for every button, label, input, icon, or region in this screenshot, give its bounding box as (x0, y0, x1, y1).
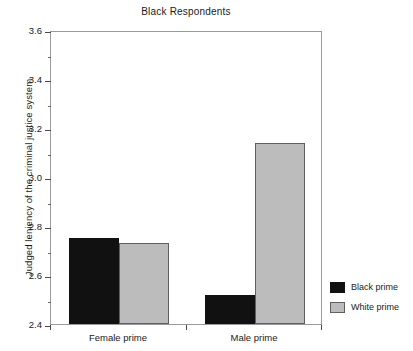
bar-female-prime-black-prime (69, 238, 119, 324)
y-tick-label: 3.6 (8, 26, 42, 36)
y-tick-label: 2.8 (8, 222, 42, 232)
bar-female-prime-white-prime (119, 243, 169, 324)
x-tick-label-female-prime: Female prime (89, 332, 147, 343)
y-tick-label: 3.0 (8, 173, 42, 183)
legend-swatch-icon (330, 302, 345, 313)
bar-male-prime-black-prime (205, 295, 255, 324)
y-tick-mark (45, 81, 51, 82)
y-tick-mark (45, 179, 51, 180)
y-tick-mark (45, 32, 51, 33)
y-tick-label: 3.2 (8, 124, 42, 134)
chart-figure: Black Respondents Judged leniency of the… (0, 0, 413, 351)
legend-label: Black prime (351, 282, 398, 292)
legend-item-black-prime: Black prime (330, 278, 412, 296)
y-minor-tick-mark (48, 57, 52, 58)
y-minor-tick-mark (48, 106, 52, 107)
chart-legend: Black primeWhite prime (330, 278, 412, 318)
y-tick-mark (45, 130, 51, 131)
y-minor-tick-mark (48, 204, 52, 205)
bar-male-prime-white-prime (255, 143, 305, 324)
chart-title: Black Respondents (50, 6, 322, 17)
y-tick-label: 2.6 (8, 271, 42, 281)
y-minor-tick-mark (48, 155, 52, 156)
legend-swatch-icon (330, 282, 345, 293)
y-minor-tick-mark (48, 253, 52, 254)
y-tick-mark (45, 228, 51, 229)
x-tick-mark (50, 325, 51, 330)
legend-label: White prime (351, 302, 399, 312)
plot-area (50, 31, 322, 325)
y-axis-tick-labels: 2.42.62.83.03.23.43.6 (8, 31, 42, 325)
legend-item-white-prime: White prime (330, 298, 412, 316)
y-tick-label: 3.4 (8, 75, 42, 85)
x-tick-mark (321, 325, 322, 330)
x-axis-tick-marks (50, 325, 322, 331)
x-tick-label-male-prime: Male prime (231, 332, 278, 343)
bars-layer (51, 32, 321, 324)
x-tick-mark (186, 325, 187, 330)
y-tick-label: 2.4 (8, 320, 42, 330)
x-axis-tick-labels: Female primeMale prime (50, 332, 322, 348)
y-minor-tick-mark (48, 302, 52, 303)
y-tick-mark (45, 277, 51, 278)
